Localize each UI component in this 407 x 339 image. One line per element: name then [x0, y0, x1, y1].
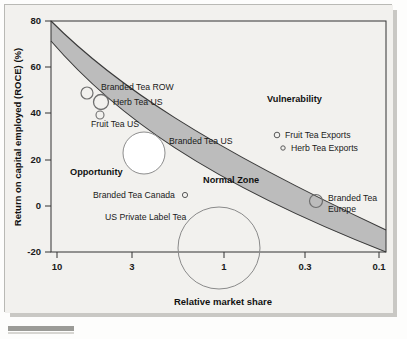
- label-branded-tea-us: Branded Tea US: [169, 136, 233, 146]
- y-tick-label-40: 40: [30, 107, 41, 118]
- zone-label-opportunity: Opportunity: [70, 167, 123, 177]
- x-tick-label-0p1: 0.1: [372, 261, 386, 272]
- figure-page: 80 60 40 20 0 -20 10 3 1 0: [0, 0, 407, 339]
- y-tick-label-0: 0: [36, 200, 41, 211]
- y-tick-label-60: 60: [30, 61, 41, 72]
- x-axis-title: Relative market share: [174, 296, 272, 307]
- label-branded-tea-row: Branded Tea ROW: [101, 82, 175, 92]
- legend-label-herb-tea-exports: Herb Tea Exports: [291, 143, 359, 153]
- y-tick-label-20: 20: [30, 154, 41, 165]
- y-axis-title: Return on capital employed (ROCE) (%): [12, 48, 23, 226]
- chart-area: 80 60 40 20 0 -20 10 3 1 0: [5, 5, 393, 313]
- y-tick-label-80: 80: [30, 15, 41, 26]
- bubble-branded-tea-us[interactable]: [123, 132, 165, 174]
- roce-vs-market-share-scatter-chart: 80 60 40 20 0 -20 10 3 1 0: [5, 5, 393, 313]
- caption-rule-primary: [8, 326, 74, 331]
- figure-frame: 80 60 40 20 0 -20 10 3 1 0: [4, 4, 392, 312]
- label-branded-tea-canada: Branded Tea Canada: [93, 190, 175, 200]
- x-tick-label-0p3: 0.3: [298, 261, 311, 272]
- y-tick-label-neg20: -20: [27, 246, 41, 257]
- label-branded-tea-europe-line2: Europe: [328, 204, 356, 214]
- zone-label-vulnerability: Vulnerability: [267, 94, 323, 104]
- caption-rule-secondary: [8, 332, 74, 334]
- label-herb-tea-us: Herb Tea US: [113, 97, 163, 107]
- legend-label-fruit-tea-exports: Fruit Tea Exports: [285, 130, 351, 140]
- x-tick-label-1: 1: [221, 261, 227, 272]
- label-fruit-tea-us: Fruit Tea US: [91, 119, 139, 129]
- x-tick-label-10: 10: [52, 261, 63, 272]
- label-branded-tea-europe-line1: Branded Tea: [328, 193, 377, 203]
- x-tick-label-3: 3: [129, 261, 134, 272]
- zone-label-normal-zone: Normal Zone: [203, 175, 259, 185]
- label-us-private-label-tea: US Private Label Tea: [105, 212, 187, 222]
